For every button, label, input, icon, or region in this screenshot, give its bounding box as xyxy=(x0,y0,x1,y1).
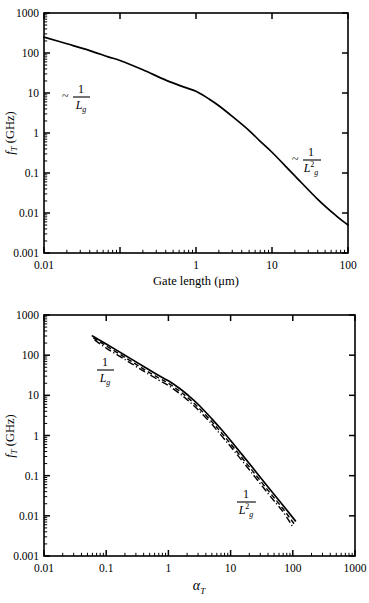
top-y-tick-labels: 10001001010.10.010.001 xyxy=(13,7,39,259)
annot-tilde-2: ~ xyxy=(292,152,299,166)
top-chart-svg: 10001001010.10.010.001 0.01110100 fT (GH… xyxy=(0,0,369,300)
x-tick-label: 0.01 xyxy=(34,562,54,574)
x-tick-label: 100 xyxy=(339,259,357,271)
bot-annot-num-1: 1 xyxy=(102,355,108,369)
bottom-y-axis-title: fT (GHz) xyxy=(3,414,19,458)
x-tick-label: 0.1 xyxy=(99,562,114,574)
y-tick-label: 0.1 xyxy=(25,470,40,482)
annotation-one-over-lg-squared: 1 L2g xyxy=(237,487,256,519)
bottom-plot-frame xyxy=(44,315,355,556)
annotation-one-over-lg: 1 Lg xyxy=(97,355,114,387)
bottom-x-axis-title: αT xyxy=(193,578,206,596)
y-tick-label: 100 xyxy=(22,47,40,59)
bot-annot-den-2: L2g xyxy=(238,502,254,519)
y-tick-label: 0.1 xyxy=(25,167,40,179)
y-tick-label: 1000 xyxy=(16,7,39,19)
bot-annot-num-2: 1 xyxy=(243,487,249,501)
bottom-y-tick-labels: 10001001010.10.010.001 xyxy=(13,309,39,562)
chart-panel-top: 10001001010.10.010.001 0.01110100 fT (GH… xyxy=(0,0,369,300)
y-tick-label: 1 xyxy=(33,127,39,139)
top-ylabel-unit: (GHz) xyxy=(3,111,17,146)
x-tick-label: 100 xyxy=(284,562,302,574)
top-plot-frame xyxy=(44,13,348,253)
bottom-chart-ticks xyxy=(44,315,355,556)
top-chart-ticks xyxy=(44,13,348,253)
annot-den-2: L2g xyxy=(303,160,319,177)
x-tick-label: 1000 xyxy=(344,562,367,574)
x-tick-label: 1 xyxy=(166,562,172,574)
x-tick-label: 0.01 xyxy=(34,259,54,271)
annot-num-2: 1 xyxy=(308,145,314,159)
annot-num-1: 1 xyxy=(78,82,84,96)
y-tick-label: 0.001 xyxy=(13,247,39,259)
bottom-chart-svg: 10001001010.10.010.001 0.010.11101001000… xyxy=(0,300,369,603)
y-tick-label: 10 xyxy=(28,389,40,401)
annotation-tilde-one-over-lg: ~ 1 Lg xyxy=(62,82,90,114)
figure-container: 10001001010.10.010.001 0.01110100 fT (GH… xyxy=(0,0,369,603)
svg-text:fT (GHz): fT (GHz) xyxy=(3,414,19,458)
bottom-curve-dashdot xyxy=(95,340,293,527)
x-tick-label: 1 xyxy=(193,259,199,271)
x-tick-label: 10 xyxy=(225,562,237,574)
top-y-axis-title: fT (GHz) xyxy=(3,111,19,155)
x-tick-label: 10 xyxy=(266,259,278,271)
top-curve-solid xyxy=(44,37,348,225)
annot-tilde-1: ~ xyxy=(62,89,69,103)
annot-den-1: Lg xyxy=(75,98,87,114)
svg-text:fT (GHz): fT (GHz) xyxy=(3,111,19,155)
y-tick-label: 0.01 xyxy=(19,207,39,219)
y-tick-label: 0.01 xyxy=(19,510,39,522)
y-tick-label: 1000 xyxy=(16,309,39,321)
top-x-tick-labels: 0.01110100 xyxy=(34,259,357,271)
y-tick-label: 100 xyxy=(22,349,40,361)
annotation-tilde-one-over-lg-squared: ~ 1 L2g xyxy=(292,145,321,177)
bottom-x-tick-labels: 0.010.11101001000 xyxy=(34,562,367,574)
bot-annot-den-1: Lg xyxy=(99,371,111,387)
bottom-ylabel-unit: (GHz) xyxy=(3,414,17,449)
y-tick-label: 0.001 xyxy=(13,550,39,562)
y-tick-label: 1 xyxy=(33,430,39,442)
chart-panel-bottom: 10001001010.10.010.001 0.010.11101001000… xyxy=(0,300,369,603)
bottom-curve-solid xyxy=(92,336,295,521)
top-x-axis-title: Gate length (μm) xyxy=(153,274,239,288)
bottom-curve-dashed xyxy=(93,338,294,524)
y-tick-label: 10 xyxy=(28,87,40,99)
